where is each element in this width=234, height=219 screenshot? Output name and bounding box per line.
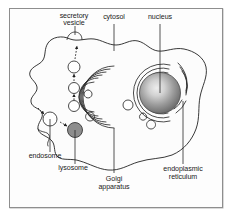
transport-vesicle-middle: [69, 83, 80, 94]
label-secretory-vesicle: secretory vesicle: [60, 12, 89, 27]
label-secretory-vesicle-line2: vesicle: [63, 19, 84, 27]
transport-vesicle-upper: [68, 61, 80, 73]
plasma-membrane: [30, 32, 207, 170]
label-cytosol: cytosol: [103, 13, 125, 21]
cell-diagram-svg: secretory vesicle cytosol nucleus endopl…: [10, 9, 222, 207]
figure-frame: secretory vesicle cytosol nucleus endopl…: [9, 8, 223, 208]
transport-vesicle-lower: [69, 101, 80, 112]
label-golgi-apparatus-line1: Golgi: [106, 175, 123, 183]
label-golgi-apparatus: Golgi apparatus: [98, 175, 130, 191]
label-endoplasmic-reticulum-line1: endoplasmic: [163, 165, 203, 173]
label-endoplasmic-reticulum: endoplasmic reticulum: [163, 165, 203, 181]
label-lysosome: lysosome: [58, 164, 88, 172]
figure-root: secretory vesicle cytosol nucleus endopl…: [0, 0, 234, 219]
label-nucleus: nucleus: [148, 13, 173, 21]
label-endoplasmic-reticulum-line2: reticulum: [169, 173, 197, 181]
label-golgi-apparatus-line2: apparatus: [98, 183, 130, 191]
label-endosome: endosome: [29, 152, 62, 160]
